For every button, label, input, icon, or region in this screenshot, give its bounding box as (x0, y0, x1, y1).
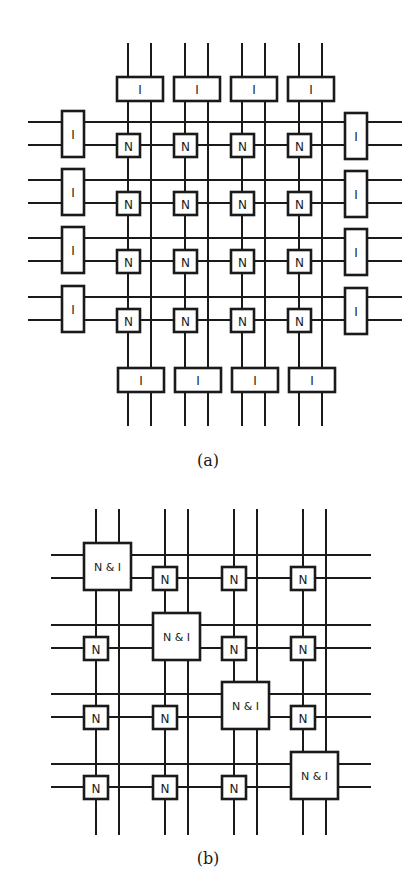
node-r2-c1: N (117, 192, 140, 215)
node-r1-c4: N (288, 134, 311, 157)
node-r1-c2: N (174, 134, 197, 157)
node-r3-c1: N (117, 250, 140, 273)
combined-node-r4-c4-label: N & I (301, 770, 328, 783)
figure-b-caption: (b) (197, 849, 220, 868)
node-r4-c1: N (84, 776, 108, 799)
io-unit-bottom-3: I (232, 368, 278, 392)
node-r4-c4-label: N (295, 315, 304, 329)
combined-node-r4-c4: N & I (291, 752, 338, 799)
node-r1-c3-label: N (230, 573, 239, 587)
node-r2-c2: N (174, 192, 197, 215)
figure-a-caption: (a) (197, 451, 219, 470)
io-unit-left-2: I (62, 169, 84, 215)
io-unit-left-3-label: I (71, 244, 75, 258)
node-r4-c1: N (117, 309, 140, 332)
node-r3-c2: N (153, 706, 177, 729)
node-r2-c4: N (291, 637, 315, 660)
node-r3-c4: N (288, 250, 311, 273)
combined-node-r3-c3-label: N & I (232, 700, 259, 713)
io-unit-top-4: I (288, 77, 334, 101)
node-r4-c3: N (222, 776, 246, 799)
node-r4-c3-label: N (230, 782, 239, 796)
node-r1-c1-label: N (124, 140, 133, 154)
node-r2-c3-label: N (230, 643, 239, 657)
node-r3-c1-label: N (124, 256, 133, 270)
node-r4-c2-label: N (161, 782, 170, 796)
combined-node-r3-c3: N & I (222, 682, 269, 729)
node-r4-c2: N (153, 776, 177, 799)
node-r3-c3-label: N (238, 256, 247, 270)
io-unit-left-3: I (62, 227, 84, 273)
io-unit-top-2-label: I (195, 83, 199, 97)
combined-node-r2-c2: N & I (153, 613, 200, 660)
node-r1-c2-label: N (161, 573, 170, 587)
io-unit-bottom-3-label: I (253, 374, 257, 388)
node-r2-c3: N (231, 192, 254, 215)
node-r3-c2-label: N (161, 712, 170, 726)
node-r2-c4-label: N (295, 198, 304, 212)
io-unit-right-2: I (345, 171, 367, 217)
node-r3-c4-label: N (295, 256, 304, 270)
io-unit-left-1: I (62, 111, 84, 157)
io-unit-right-4-label: I (354, 305, 358, 319)
io-unit-right-3: I (345, 229, 367, 275)
node-r4-c1-label: N (124, 315, 133, 329)
io-unit-top-1: I (117, 77, 163, 101)
node-r4-c3: N (231, 309, 254, 332)
node-r1-c4-label: N (299, 573, 308, 587)
node-r2-c3-label: N (238, 198, 247, 212)
node-r2-c4-label: N (299, 643, 308, 657)
node-r3-c1-label: N (92, 712, 101, 726)
io-unit-bottom-4: I (289, 368, 335, 392)
node-r1-c1: N (117, 134, 140, 157)
io-unit-left-4-label: I (71, 303, 75, 317)
io-unit-bottom-1: I (118, 368, 164, 392)
node-r4-c2-label: N (181, 315, 190, 329)
io-unit-right-1: I (345, 113, 367, 159)
node-r2-c1: N (84, 637, 108, 660)
node-r2-c3: N (222, 637, 246, 660)
io-unit-bottom-4-label: I (310, 374, 314, 388)
io-unit-top-3-label: I (252, 83, 256, 97)
node-r1-c4-label: N (295, 140, 304, 154)
node-r1-c2-label: N (181, 140, 190, 154)
node-r3-c4: N (291, 706, 315, 729)
io-unit-right-3-label: I (354, 246, 358, 260)
node-r2-c4: N (288, 192, 311, 215)
node-r1-c4: N (291, 567, 315, 590)
node-r4-c1-label: N (92, 782, 101, 796)
figure-b-mesh-with-combined-nodes: N & INNNNN & INNNNN & INNNNN & I (51, 509, 371, 835)
combined-node-r1-c1: N & I (84, 543, 131, 590)
node-r4-c3-label: N (238, 315, 247, 329)
node-r1-c3: N (222, 567, 246, 590)
node-r3-c4-label: N (299, 712, 308, 726)
node-r4-c4: N (288, 309, 311, 332)
node-r3-c3: N (231, 250, 254, 273)
node-r1-c3: N (231, 134, 254, 157)
node-r3-c2-label: N (181, 256, 190, 270)
io-unit-right-1-label: I (354, 130, 358, 144)
io-unit-top-1-label: I (138, 83, 142, 97)
node-r2-c1-label: N (124, 198, 133, 212)
io-unit-bottom-2-label: I (196, 374, 200, 388)
diagram-canvas: IIIIIIIIIIIIIIIINNNNNNNNNNNNNNNN N & INN… (0, 0, 411, 886)
node-r4-c2: N (174, 309, 197, 332)
io-unit-right-4: I (345, 288, 367, 334)
figure-a-mesh-with-io-units: IIIIIIIIIIIIIIIINNNNNNNNNNNNNNNN (28, 43, 402, 426)
io-unit-left-4: I (62, 286, 84, 332)
combined-node-r1-c1-label: N & I (94, 561, 121, 574)
io-unit-left-1-label: I (71, 128, 75, 142)
io-unit-left-2-label: I (71, 186, 75, 200)
io-unit-right-2-label: I (354, 188, 358, 202)
node-r1-c3-label: N (238, 140, 247, 154)
io-unit-bottom-2: I (175, 368, 221, 392)
node-r2-c2-label: N (181, 198, 190, 212)
io-unit-bottom-1-label: I (139, 374, 143, 388)
io-unit-top-4-label: I (309, 83, 313, 97)
node-r1-c2: N (153, 567, 177, 590)
node-r3-c2: N (174, 250, 197, 273)
combined-node-r2-c2-label: N & I (163, 631, 190, 644)
io-unit-top-2: I (174, 77, 220, 101)
node-r3-c1: N (84, 706, 108, 729)
node-r2-c1-label: N (92, 643, 101, 657)
